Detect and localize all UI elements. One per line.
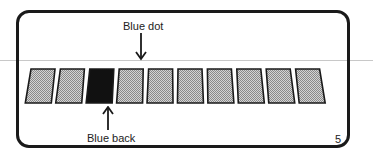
blue-back-label: Blue back: [87, 132, 135, 144]
card-face-down-gray: [147, 69, 173, 103]
card-face-down-gray: [177, 69, 203, 103]
card-face-down-gray: [237, 69, 265, 103]
card-face-down-gray: [56, 69, 85, 103]
card-blue-back: [86, 69, 114, 103]
page-number: 5: [335, 133, 341, 145]
up-arrow-icon: [102, 106, 114, 130]
card-row: [0, 0, 373, 157]
card-face-down-gray: [296, 69, 326, 103]
card-face-down-gray: [266, 69, 295, 103]
card-face-down-gray: [25, 69, 55, 103]
card-face-down-gray: [207, 69, 233, 103]
card-blue-dot: [117, 69, 144, 103]
